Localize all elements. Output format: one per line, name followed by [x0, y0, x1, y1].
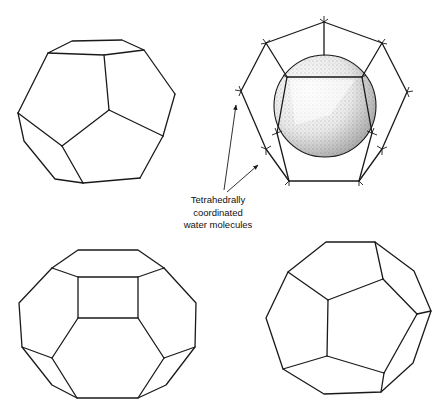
- polyhedron-top-right: [224, 16, 413, 192]
- annotation-label: Tetrahedrally coordinated water molecule…: [168, 194, 268, 232]
- polyhedron-bottom-right: [266, 242, 431, 394]
- polyhedron-bottom-left: [19, 250, 196, 398]
- annotation-line-1: Tetrahedrally: [168, 194, 268, 207]
- arrow-to-vertex-upper: [224, 105, 236, 190]
- annotation-line-2: coordinated: [168, 207, 268, 220]
- annotation-line-3: water molecules: [168, 219, 268, 232]
- polyhedron-top-left: [18, 40, 175, 183]
- arrow-to-vertex-lower: [227, 165, 258, 192]
